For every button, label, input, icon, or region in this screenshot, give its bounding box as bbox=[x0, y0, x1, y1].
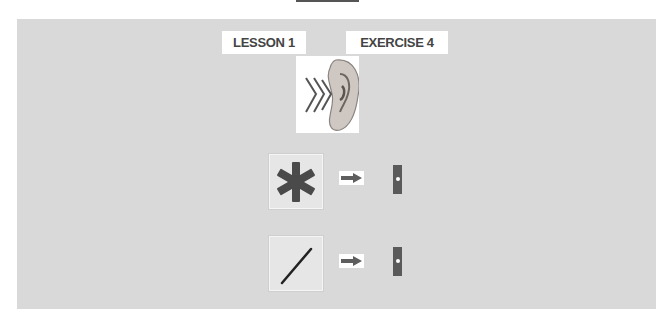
top-bar bbox=[296, 0, 359, 2]
exercise-panel: LESSON 1 EXERCISE 4 bbox=[17, 19, 656, 309]
answer-slot[interactable] bbox=[393, 165, 402, 194]
symbol-card-slash[interactable] bbox=[269, 236, 323, 291]
exercise-label: EXERCISE 4 bbox=[346, 31, 448, 54]
arrow-right-icon bbox=[339, 254, 364, 268]
bar-slot-icon bbox=[396, 177, 400, 181]
slash-icon bbox=[270, 237, 322, 290]
arrow-right-icon bbox=[339, 171, 364, 185]
lesson-label: LESSON 1 bbox=[222, 31, 306, 54]
bar-slot-icon bbox=[396, 259, 400, 263]
asterisk-icon bbox=[270, 155, 322, 208]
ear-listening-icon bbox=[296, 56, 359, 133]
answer-slot[interactable] bbox=[393, 247, 402, 276]
listen-button[interactable] bbox=[296, 56, 359, 133]
symbol-card-asterisk[interactable] bbox=[269, 154, 323, 209]
